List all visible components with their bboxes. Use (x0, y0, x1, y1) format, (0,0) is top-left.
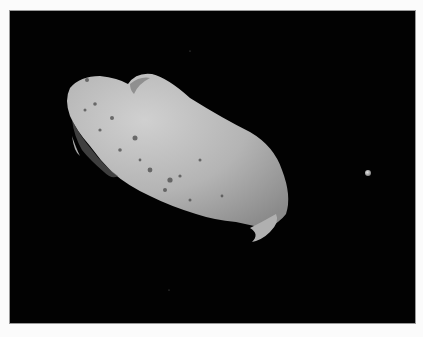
asteroid (67, 74, 288, 242)
star (189, 50, 190, 51)
asteroid-scene (0, 0, 423, 337)
star (168, 289, 169, 290)
moon (365, 170, 371, 176)
